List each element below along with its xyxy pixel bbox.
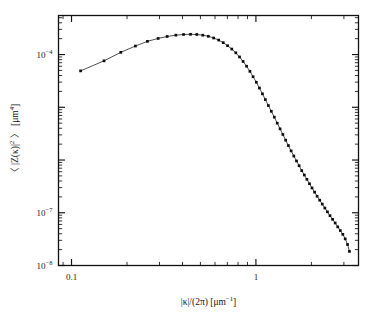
data-line [81, 34, 350, 251]
data-point [306, 178, 309, 181]
data-point [238, 56, 241, 59]
plot-frame [59, 16, 359, 266]
data-point [207, 35, 210, 38]
data-point [119, 51, 122, 54]
data-point [195, 33, 198, 36]
axis-titles: |κ|/(2π) [μm−1]〈 |Z(κ)|2 〉 [μm4] [8, 104, 236, 308]
y-axis-tick-labels: 10−410−710−8 [37, 48, 54, 271]
data-point [292, 155, 295, 158]
data-point [308, 182, 311, 185]
data-point [166, 35, 169, 38]
data-point [230, 48, 233, 51]
data-point [270, 110, 273, 113]
data-point [341, 233, 344, 236]
tick-label: 0.1 [66, 272, 77, 282]
data-point [261, 92, 264, 95]
data-point [242, 60, 245, 63]
data-point [146, 40, 149, 43]
data-point [311, 187, 314, 190]
data-point [273, 116, 276, 119]
data-point [313, 191, 316, 194]
data-point [336, 226, 339, 229]
data-point [300, 169, 303, 172]
data-point [284, 139, 287, 142]
data-point [264, 98, 267, 101]
data-point [346, 243, 349, 246]
data-point [212, 37, 215, 40]
data-point [175, 34, 178, 37]
data-point [348, 250, 351, 253]
y-axis-title: 〈 |Z(κ)|2 〉 [μm4] [8, 104, 21, 178]
data-point [245, 65, 248, 68]
data-point [222, 41, 225, 44]
data-point [282, 133, 285, 136]
data-point [182, 33, 185, 36]
axis-frame [59, 16, 359, 266]
figure-container: 0.11 10−410−710−8 |κ|/(2π) [μm−1]〈 |Z(κ)… [0, 0, 383, 319]
data-point [255, 81, 258, 84]
data-point [249, 70, 252, 73]
data-point [318, 199, 321, 202]
data-point [201, 34, 204, 37]
data-point [287, 144, 290, 147]
data-point [134, 45, 137, 48]
data-point [276, 122, 279, 125]
data-point [344, 238, 347, 241]
data-point [329, 214, 332, 217]
data-point [103, 59, 106, 62]
log-log-spectrum-chart: 0.11 10−410−710−8 |κ|/(2π) [μm−1]〈 |Z(κ)… [0, 0, 383, 319]
data-point [217, 39, 220, 42]
tick-label: 10−4 [37, 48, 54, 60]
x-axis-ticks [63, 16, 344, 266]
data-point [226, 44, 229, 47]
x-axis-title: |κ|/(2π) [μm−1] [181, 295, 237, 308]
tick-label: 10−7 [37, 206, 54, 218]
data-point [334, 222, 337, 225]
data-point [295, 160, 298, 163]
data-point [79, 70, 82, 73]
data-point [316, 195, 319, 198]
data-point [298, 164, 301, 167]
data-point [157, 37, 160, 40]
data-series-layer [79, 33, 351, 253]
data-point [324, 207, 327, 210]
y-axis-ticks [59, 18, 359, 266]
data-point [267, 104, 270, 107]
data-point [279, 128, 282, 131]
tick-label: 1 [254, 272, 259, 282]
x-axis-tick-labels: 0.11 [66, 272, 258, 282]
tick-label: 10−8 [37, 259, 53, 271]
data-point [326, 211, 329, 214]
data-point [189, 33, 192, 36]
data-point [234, 51, 237, 54]
data-point [303, 174, 306, 177]
data-point [321, 203, 324, 206]
data-point [252, 75, 255, 78]
data-point [331, 218, 334, 221]
data-point [258, 87, 261, 90]
data-point [339, 229, 342, 232]
data-point [290, 150, 293, 153]
